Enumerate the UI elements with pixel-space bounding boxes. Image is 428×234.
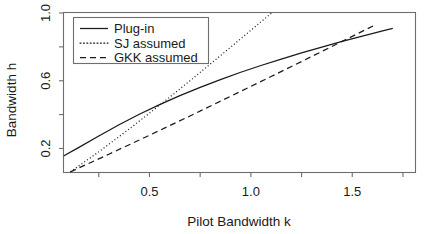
x-tick-label: 1.5 [343, 184, 361, 199]
y-tick-label: 0.6 [39, 72, 54, 90]
y-axis-title: Bandwidth h [4, 63, 19, 137]
chart-figure: 0.20.61.0 0.51.01.5 Pilot Bandwidth k Ba… [0, 0, 428, 234]
chart-legend[interactable]: Plug-inSJ assumedGKK assumed [74, 18, 209, 66]
legend-label: Plug-in [114, 21, 154, 36]
y-tick-label: 1.0 [39, 4, 54, 22]
x-tick-label: 0.5 [140, 184, 158, 199]
x-tick-label: 1.0 [242, 184, 260, 199]
legend-label: SJ assumed [114, 36, 186, 51]
x-axis-title: Pilot Bandwidth k [187, 214, 291, 229]
y-tick-label: 0.2 [39, 139, 54, 157]
bandwidth-line-chart: 0.20.61.0 0.51.01.5 Pilot Bandwidth k Ba… [0, 0, 428, 234]
legend-label: GKK assumed [114, 50, 198, 65]
